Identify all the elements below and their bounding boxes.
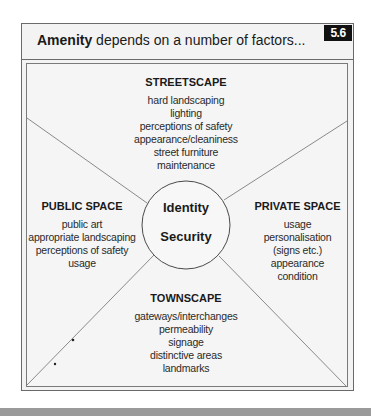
list-item: perceptions of safety: [106, 120, 266, 133]
list-item: appearance: [245, 257, 350, 270]
section-heading: TOWNSCAPE: [116, 292, 256, 305]
list-item: street furniture: [106, 146, 266, 159]
section-townscape: TOWNSCAPE gateways/interchanges permeabi…: [116, 292, 256, 375]
list-item: landmarks: [116, 362, 256, 375]
list-item: maintenance: [106, 159, 266, 172]
center-circle: [142, 181, 230, 269]
section-heading: STREETSCAPE: [106, 76, 266, 89]
speck: [54, 363, 56, 365]
list-item: lighting: [106, 107, 266, 120]
list-item: usage: [22, 257, 142, 270]
list-item: appropriate landscaping: [22, 231, 142, 244]
center-label-security: Security: [142, 229, 230, 244]
section-public-space: PUBLIC SPACE public art appropriate land…: [22, 200, 142, 270]
page-edge-band: [0, 408, 371, 416]
list-item: usage: [245, 218, 350, 231]
list-item: hard landscaping: [106, 94, 266, 107]
list-item: perceptions of safety: [22, 244, 142, 257]
section-private-space: PRIVATE SPACE usage personalisation (sig…: [245, 200, 350, 283]
section-heading: PUBLIC SPACE: [22, 200, 142, 213]
speck: [72, 339, 75, 342]
list-item: (signs etc.): [245, 244, 350, 257]
section-streetscape: STREETSCAPE hard landscaping lighting pe…: [106, 76, 266, 172]
list-item: personalisation: [245, 231, 350, 244]
list-item: distinctive areas: [116, 349, 256, 362]
list-item: signage: [116, 336, 256, 349]
section-heading: PRIVATE SPACE: [245, 200, 350, 213]
list-item: permeability: [116, 323, 256, 336]
center-label-identity: Identity: [142, 200, 230, 215]
list-item: public art: [22, 218, 142, 231]
list-item: condition: [245, 270, 350, 283]
list-item: gateways/interchanges: [116, 310, 256, 323]
list-item: appearance/cleaniness: [106, 133, 266, 146]
